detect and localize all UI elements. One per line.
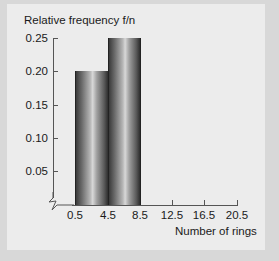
y-tick-label: 0.25 [14,32,48,44]
x-tick-label: 0.5 [60,209,90,221]
y-tick [53,105,58,106]
x-axis-label: Number of rings [175,225,257,237]
y-axis-label: Relative frequency f/n [24,14,135,26]
x-tick-label: 20.5 [222,209,252,221]
y-tick-label: 0.10 [14,132,48,144]
y-tick [53,171,58,172]
histogram-bar-4.5-8.5 [108,38,141,205]
x-tick [237,200,238,205]
y-tick [53,138,58,139]
y-tick-label: 0.05 [14,165,48,177]
y-axis-line [53,38,54,198]
y-tick-label: 0.20 [14,65,48,77]
x-tick [204,200,205,205]
x-tick-label: 4.5 [93,209,123,221]
x-tick-label: 16.5 [189,209,219,221]
y-tick-label: 0.15 [14,99,48,111]
x-tick-label: 12.5 [157,209,187,221]
y-tick [53,38,58,39]
x-tick-label: 8.5 [125,209,155,221]
x-axis-line [72,205,238,206]
x-tick [172,200,173,205]
y-tick [53,71,58,72]
histogram-bar-0.5-4.5 [75,71,109,205]
